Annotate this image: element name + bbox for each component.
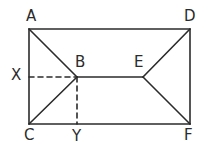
segment-AB [29, 29, 77, 77]
vertex-label-y: Y [72, 129, 81, 144]
vertex-label-e: E [134, 55, 143, 70]
vertex-label-f: F [184, 128, 193, 143]
vertex-label-a: A [26, 9, 36, 24]
segment-CB [29, 77, 77, 124]
geometry-figure: ADCFBEXY [0, 0, 205, 151]
segment-DE [143, 29, 190, 77]
vertex-label-d: D [184, 9, 196, 24]
vertex-label-c: C [24, 128, 34, 143]
vertex-label-x: X [11, 68, 21, 83]
segments-layer [29, 29, 190, 124]
vertex-label-b: B [75, 55, 85, 70]
segment-FE [143, 77, 190, 124]
